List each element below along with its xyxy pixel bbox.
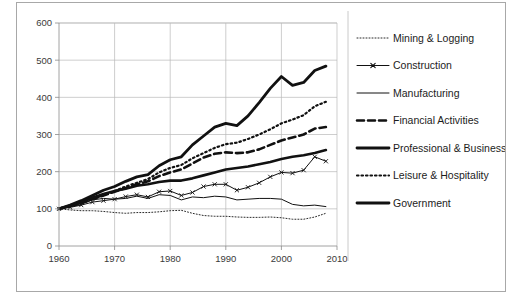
y-tick-label: 100 bbox=[36, 203, 52, 214]
legend-item[interactable]: Construction bbox=[357, 59, 452, 71]
x-tick-label: 2010 bbox=[326, 253, 347, 264]
legend-item[interactable]: Mining & Logging bbox=[357, 32, 474, 44]
legend-label: Leisure & Hospitality bbox=[393, 169, 489, 181]
legend-item[interactable]: Manufacturing bbox=[357, 87, 460, 99]
y-tick-label: 400 bbox=[36, 92, 52, 103]
y-axis-tick-labels: 0100200300400500600 bbox=[36, 17, 52, 251]
y-tick-label: 200 bbox=[36, 166, 52, 177]
x-tick-label: 1990 bbox=[215, 253, 236, 264]
legend-label: Government bbox=[393, 197, 451, 209]
chart-legend: Mining & LoggingConstructionManufacturin… bbox=[348, 11, 505, 261]
legend-label: Financial Activities bbox=[393, 114, 479, 126]
legend-item[interactable]: Government bbox=[357, 197, 451, 209]
legend-label: Manufacturing bbox=[393, 87, 460, 99]
y-tick-label: 500 bbox=[36, 55, 52, 66]
series-line bbox=[59, 66, 326, 209]
legend-label: Construction bbox=[393, 59, 452, 71]
x-tick-label: 2000 bbox=[271, 253, 292, 264]
y-tick-label: 300 bbox=[36, 129, 52, 140]
figure-frame: 0100200300400500600 19601970198019902000… bbox=[16, 2, 506, 292]
legend-item[interactable]: Professional & Business bbox=[357, 142, 505, 154]
line-chart: 0100200300400500600 19601970198019902000… bbox=[17, 3, 505, 291]
legend-item[interactable]: Leisure & Hospitality bbox=[357, 169, 489, 181]
y-tick-label: 600 bbox=[36, 17, 52, 28]
grid-layer bbox=[59, 23, 337, 246]
x-tick-label: 1970 bbox=[104, 253, 125, 264]
legend-item[interactable]: Financial Activities bbox=[357, 114, 479, 126]
series-line bbox=[59, 209, 326, 219]
series-layer bbox=[57, 66, 327, 219]
x-tick-label: 1960 bbox=[48, 253, 69, 264]
x-tick-label: 1980 bbox=[160, 253, 181, 264]
x-axis-tick-labels: 196019701980199020002010 bbox=[48, 253, 347, 264]
legend-label: Mining & Logging bbox=[393, 32, 474, 44]
legend-label: Professional & Business bbox=[393, 142, 505, 154]
y-tick-label: 0 bbox=[47, 240, 52, 251]
